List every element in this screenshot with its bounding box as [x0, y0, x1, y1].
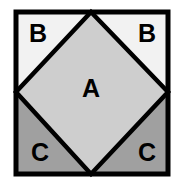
geometry-figure: B B A C C — [0, 0, 180, 187]
region-label-c-left: C — [31, 138, 49, 166]
region-label-a: A — [82, 74, 100, 102]
figure-canvas: B B A C C — [0, 0, 180, 187]
region-label-c-right: C — [138, 138, 156, 166]
region-label-b-left: B — [29, 19, 47, 47]
region-label-b-right: B — [138, 19, 156, 47]
